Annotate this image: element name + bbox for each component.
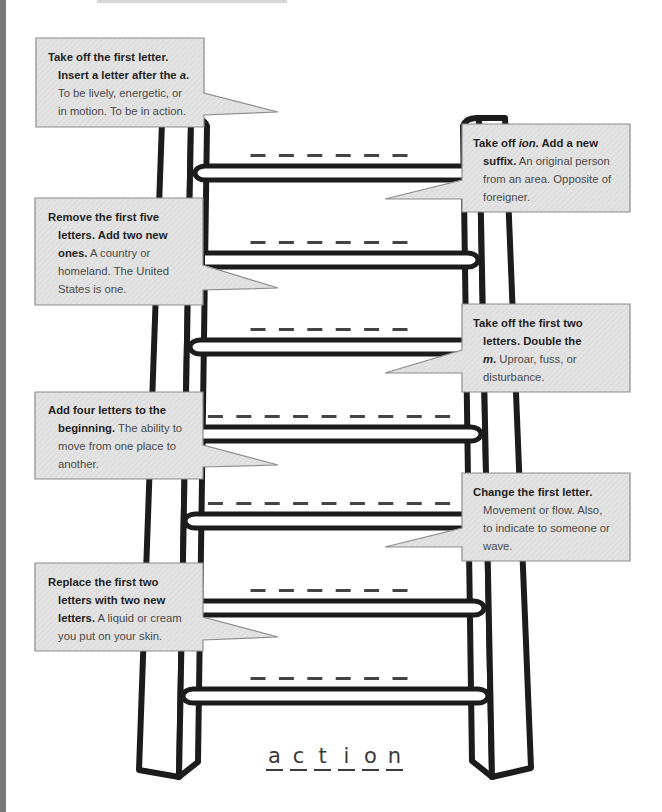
- clue-definition: A country or: [88, 247, 151, 259]
- clue-line: you put on your skin.: [48, 627, 182, 645]
- start-word-letter: t: [314, 744, 331, 771]
- clue-line: letters with two new: [48, 591, 182, 609]
- clue-instruction: suffix.: [483, 155, 516, 167]
- clue-line: disturbance.: [473, 368, 583, 386]
- clue-definition: Uproar, fuss, or: [496, 353, 576, 365]
- start-word-letter: a: [266, 744, 283, 771]
- clue-line: another.: [48, 455, 182, 473]
- clue-4: Take off the first two letters. Double t…: [473, 314, 583, 386]
- start-word-letter: n: [386, 744, 403, 771]
- start-word-letter: i: [338, 744, 355, 771]
- clue-instruction: Remove the first five: [48, 211, 159, 223]
- clue-instruction: beginning.: [58, 422, 115, 434]
- clue-emphasis: ion: [519, 137, 536, 149]
- clue-instruction: . Add a new: [536, 137, 598, 149]
- clue-line: from an area. Opposite of: [473, 170, 611, 188]
- start-word-letter: o: [362, 744, 379, 771]
- clue-emphasis: m: [483, 353, 493, 365]
- clue-definition: you put on your skin.: [58, 630, 162, 642]
- clue-2: Take off ion. Add a new suffix. An origi…: [473, 134, 611, 206]
- clue-instruction: ones.: [58, 247, 88, 259]
- clue-definition: To be lively, energetic, or: [58, 87, 182, 99]
- clue-6: Change the first letter. Movement or flo…: [473, 483, 610, 555]
- clue-instruction: letters. Add two new: [58, 229, 167, 241]
- clue-line: in motion. To be in action.: [48, 102, 189, 120]
- clue-instruction: Take off the first letter.: [48, 51, 168, 63]
- clue-instruction: letters.: [58, 612, 95, 624]
- clue-definition: another.: [58, 458, 99, 470]
- clue-definition: wave.: [483, 540, 513, 552]
- clue-line: To be lively, energetic, or: [48, 84, 189, 102]
- clue-instruction: letters with two new: [58, 594, 165, 606]
- clue-line: Take off the first two: [473, 314, 583, 332]
- clue-definition: homeland. The United: [58, 265, 169, 277]
- clue-definition: Movement or flow. Also,: [483, 504, 602, 516]
- clue-line: Remove the first five: [48, 208, 169, 226]
- clue-line: letters. Double the: [473, 332, 583, 350]
- clue-instruction: Replace the first two: [48, 576, 158, 588]
- clue-7: Replace the first two letters with two n…: [48, 573, 182, 645]
- clue-line: States is one.: [48, 280, 169, 298]
- clue-line: suffix. An original person: [473, 152, 611, 170]
- clue-instruction: Take off: [473, 137, 519, 149]
- clue-line: homeland. The United: [48, 262, 169, 280]
- clue-line: foreigner.: [473, 188, 611, 206]
- start-word-letter: c: [290, 744, 307, 771]
- clue-definition: An original person: [516, 155, 610, 167]
- clue-line: Take off the first letter.: [48, 48, 189, 66]
- clue-definition: in motion. To be in action.: [58, 105, 186, 117]
- clue-definition: The ability to: [115, 422, 182, 434]
- clue-line: Replace the first two: [48, 573, 182, 591]
- clue-line: to indicate to someone or: [473, 519, 610, 537]
- clue-instruction: letters. Double the: [483, 335, 582, 347]
- clue-instruction: Take off the first two: [473, 317, 583, 329]
- clue-instruction: .: [186, 69, 189, 81]
- clue-line: Insert a letter after the a.: [48, 66, 189, 84]
- clue-line: letters. A liquid or cream: [48, 609, 182, 627]
- clue-instruction: Change the first letter.: [473, 486, 592, 498]
- start-word: a c t i o n: [266, 744, 403, 771]
- clue-definition: move from one place to: [58, 440, 176, 452]
- clue-line: ones. A country or: [48, 244, 169, 262]
- clue-definition: disturbance.: [483, 371, 545, 383]
- clue-line: m. Uproar, fuss, or: [473, 350, 583, 368]
- clue-instruction: Add four letters to the: [48, 404, 166, 416]
- clue-line: letters. Add two new: [48, 226, 169, 244]
- clue-3: Remove the first five letters. Add two n…: [48, 208, 169, 298]
- clue-instruction: Insert a letter after the: [58, 69, 180, 81]
- clue-line: Movement or flow. Also,: [473, 501, 610, 519]
- clue-definition: from an area. Opposite of: [483, 173, 611, 185]
- clue-definition: States is one.: [58, 283, 126, 295]
- clue-definition: to indicate to someone or: [483, 522, 610, 534]
- clue-1: Take off the first letter. Insert a lett…: [48, 48, 189, 120]
- clue-line: Take off ion. Add a new: [473, 134, 611, 152]
- clue-definition: foreigner.: [483, 191, 530, 203]
- clue-line: Add four letters to the: [48, 401, 182, 419]
- clue-line: Change the first letter.: [473, 483, 610, 501]
- clue-line: beginning. The ability to: [48, 419, 182, 437]
- clue-definition: A liquid or cream: [95, 612, 182, 624]
- clue-5: Add four letters to the beginning. The a…: [48, 401, 182, 473]
- clue-line: wave.: [473, 537, 610, 555]
- clue-line: move from one place to: [48, 437, 182, 455]
